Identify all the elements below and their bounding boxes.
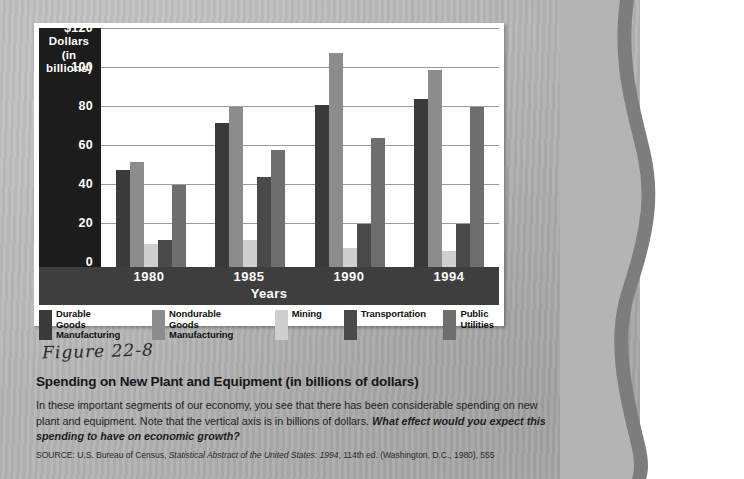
bar-group	[400, 28, 500, 267]
y-axis-tick: 20	[78, 216, 93, 230]
bar	[130, 162, 144, 267]
bar	[329, 53, 343, 268]
legend-item: Mining	[275, 309, 344, 340]
x-axis-tick: 1985	[199, 267, 299, 287]
bar-group	[300, 28, 400, 267]
legend-item: Nondurable Goods Manufacturing	[152, 309, 275, 341]
bar	[116, 170, 130, 268]
bar	[144, 244, 158, 267]
bar	[229, 107, 243, 267]
bar	[243, 240, 257, 267]
x-axis: 1980198519901994 Years	[39, 267, 499, 305]
legend-label: Mining	[292, 309, 322, 320]
bar	[343, 248, 357, 268]
figure-title: Spending on New Plant and Equipment (in …	[36, 374, 556, 389]
legend-swatch	[344, 310, 357, 340]
bar	[414, 99, 428, 267]
plot-area	[99, 28, 499, 267]
y-axis: Dollars (in billions) $120100806040200	[39, 28, 99, 267]
legend-label: Durable Goods Manufacturing	[56, 309, 120, 341]
bar	[442, 251, 456, 267]
source-suffix: , 114th ed. (Washington, D.C., 1980), 55…	[338, 450, 494, 460]
legend-item: Durable Goods Manufacturing	[39, 309, 152, 341]
bar	[257, 177, 271, 267]
source-prefix: SOURCE: U.S. Bureau of Census,	[36, 450, 169, 460]
x-axis-tick: 1990	[299, 267, 399, 287]
bar	[357, 224, 371, 267]
legend-item: Public Utilities	[443, 309, 499, 340]
legend-swatch	[443, 310, 456, 340]
handwritten-figure-number: Figure 22-8	[42, 340, 154, 363]
x-axis-tick: 1980	[99, 267, 199, 287]
bar	[428, 70, 442, 267]
bar-group	[101, 28, 201, 267]
figure-source: SOURCE: U.S. Bureau of Census, Statistic…	[36, 450, 576, 460]
x-axis-tick: 1994	[399, 267, 499, 287]
bar	[470, 107, 484, 267]
bar	[271, 150, 285, 267]
bar	[371, 138, 385, 267]
y-axis-tick: $120	[64, 21, 93, 35]
legend-label: Public Utilities	[460, 309, 493, 330]
bar-group	[201, 28, 301, 267]
bar	[215, 123, 229, 267]
y-axis-tick: 80	[78, 99, 93, 113]
source-title: Statistical Abstract of the United State…	[169, 450, 339, 460]
chart-legend: Durable Goods ManufacturingNondurable Go…	[39, 309, 499, 341]
chart-panel: Dollars (in billions) $120100806040200 1…	[34, 23, 504, 326]
legend-label: Nondurable Goods Manufacturing	[169, 309, 233, 341]
y-axis-tick: 40	[78, 177, 93, 191]
legend-label: Transportation	[361, 309, 426, 320]
y-axis-tick: 60	[78, 138, 93, 152]
y-axis-title-line-1: Dollars	[39, 35, 99, 49]
legend-swatch	[39, 310, 52, 340]
figure-description: In these important segments of our econo…	[36, 398, 556, 445]
bar	[172, 185, 186, 267]
legend-item: Transportation	[344, 309, 444, 340]
x-axis-label: Years	[39, 286, 499, 301]
legend-swatch	[275, 310, 288, 340]
bar	[158, 240, 172, 267]
chart-inner: Dollars (in billions) $120100806040200 1…	[39, 28, 499, 321]
bar	[456, 224, 470, 267]
bar-groups	[101, 28, 499, 267]
x-axis-tick-labels: 1980198519901994	[99, 267, 499, 287]
bar	[315, 105, 329, 267]
legend-swatch	[152, 310, 165, 340]
y-axis-tick: 100	[71, 60, 93, 74]
